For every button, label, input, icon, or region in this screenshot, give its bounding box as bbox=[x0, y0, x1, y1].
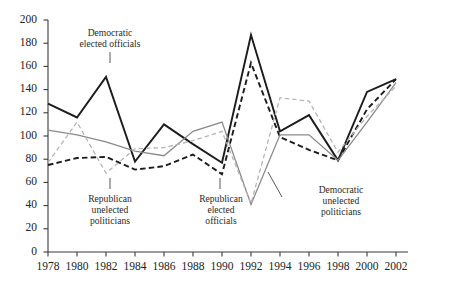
annotation-line: unelected bbox=[61, 204, 159, 215]
chart-series-group bbox=[48, 35, 396, 204]
annotation-republican-unelected-politicians: Republicanunelectedpoliticians bbox=[61, 193, 159, 227]
annotation-line: unelected bbox=[292, 195, 390, 206]
y-tick-label: 120 bbox=[7, 105, 37, 117]
annotation-line: Democratic bbox=[292, 184, 390, 195]
annotation-democratic-unelected-politicians: Democraticunelectedpoliticians bbox=[292, 184, 390, 218]
annotation-republican-elected-officials: Republicanelectedofficials bbox=[172, 193, 270, 227]
annotation-line: Democratic bbox=[61, 27, 159, 38]
y-tick-label: 80 bbox=[7, 152, 37, 164]
annotation-leader-lines bbox=[110, 52, 282, 197]
y-tick-label: 200 bbox=[7, 13, 37, 25]
y-tick-label: 20 bbox=[7, 221, 37, 233]
y-tick-label: 160 bbox=[7, 59, 37, 71]
y-tick-label: 180 bbox=[7, 36, 37, 48]
annotation-democratic-elected-officials: Democraticelected officials bbox=[61, 27, 159, 49]
x-tick-label: 2002 bbox=[376, 260, 416, 272]
annotation-line: elected officials bbox=[61, 38, 159, 49]
annotation-line: politicians bbox=[292, 206, 390, 217]
annotation-leader bbox=[268, 172, 282, 197]
annotation-line: Republican bbox=[61, 193, 159, 204]
series-line-1 bbox=[48, 63, 396, 174]
y-tick-label: 0 bbox=[7, 245, 37, 257]
annotation-line: Republican bbox=[172, 193, 270, 204]
line-chart: 020406080100120140160180200 197819801982… bbox=[0, 0, 463, 290]
annotation-line: officials bbox=[172, 215, 270, 226]
y-tick-label: 100 bbox=[7, 129, 37, 141]
series-line-0 bbox=[48, 35, 396, 163]
annotation-line: elected bbox=[172, 204, 270, 215]
annotation-line: politicians bbox=[61, 215, 159, 226]
y-tick-label: 60 bbox=[7, 175, 37, 187]
y-tick-label: 140 bbox=[7, 82, 37, 94]
y-tick-label: 40 bbox=[7, 198, 37, 210]
